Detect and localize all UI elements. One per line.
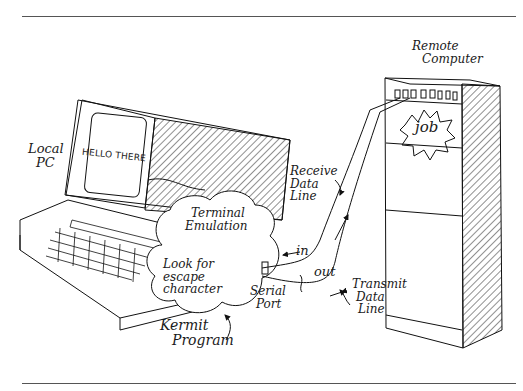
label-emulation: Emulation xyxy=(185,220,247,233)
label-in: in xyxy=(296,244,309,258)
label-look-for-escape-character: Look for escape character xyxy=(163,258,222,296)
label-receive-line: Line xyxy=(290,190,338,203)
label-local-pc: Local PC xyxy=(28,142,64,169)
label-character: character xyxy=(163,283,222,296)
label-remote-computer: Remote Computer xyxy=(412,40,483,65)
label-transmit-data-line: Transmit Data Line xyxy=(352,278,407,316)
label-out: out xyxy=(314,265,335,279)
label-serial-port: Serial Port xyxy=(250,285,286,310)
label-terminal: Terminal xyxy=(185,207,247,220)
label-transmit-line: Line xyxy=(352,303,407,316)
label-computer: Computer xyxy=(412,53,483,66)
label-receive: Receive xyxy=(290,165,338,178)
label-program: Program xyxy=(160,333,234,348)
label-look-for: Look for xyxy=(163,258,222,271)
label-port: Port xyxy=(250,298,286,311)
label-serial: Serial xyxy=(250,285,286,298)
label-receive-data-line: Receive Data Line xyxy=(290,165,338,203)
label-kermit-program: Kermit Program xyxy=(160,318,234,347)
label-kermit: Kermit xyxy=(160,318,234,333)
label-job: job xyxy=(415,120,438,136)
label-terminal-emulation: Terminal Emulation xyxy=(185,207,247,232)
label-local: Local xyxy=(28,142,64,156)
label-pc: PC xyxy=(28,156,64,170)
label-remote: Remote xyxy=(412,40,483,53)
label-transmit: Transmit xyxy=(352,278,407,291)
